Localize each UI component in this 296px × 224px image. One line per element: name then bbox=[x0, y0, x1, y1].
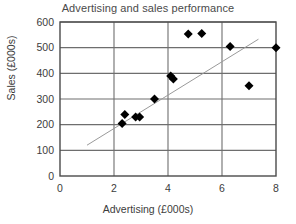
svg-text:600: 600 bbox=[36, 16, 54, 28]
svg-text:100: 100 bbox=[36, 144, 54, 156]
svg-text:500: 500 bbox=[36, 41, 54, 53]
svg-text:400: 400 bbox=[36, 67, 54, 79]
svg-text:200: 200 bbox=[36, 118, 54, 130]
svg-text:8: 8 bbox=[273, 182, 279, 194]
y-tick-labels: 0100200300400500600 bbox=[36, 16, 54, 182]
svg-text:6: 6 bbox=[219, 182, 225, 194]
svg-text:4: 4 bbox=[165, 182, 171, 194]
svg-text:300: 300 bbox=[36, 93, 54, 105]
svg-text:0: 0 bbox=[57, 182, 63, 194]
scatter-chart: Advertising and sales performance Sales … bbox=[0, 0, 296, 224]
data-points bbox=[118, 29, 281, 128]
x-tick-labels: 02468 bbox=[57, 182, 279, 194]
grid-lines bbox=[60, 22, 276, 176]
trendline bbox=[87, 39, 258, 145]
svg-text:2: 2 bbox=[111, 182, 117, 194]
svg-text:0: 0 bbox=[48, 170, 54, 182]
plot-area: 0100200300400500600 02468 bbox=[0, 0, 296, 224]
